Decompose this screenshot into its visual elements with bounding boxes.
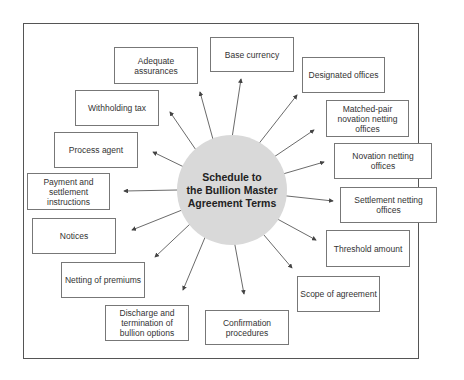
arrow-netting-premiums [155, 224, 190, 257]
node-label: Matched-pair novation netting offices [337, 104, 399, 134]
node-process-agent: Process agent [54, 132, 138, 168]
node-label: Base currency [225, 50, 279, 60]
node-payment-settlement: Payment and settlement instructions [27, 173, 110, 210]
arrow-withholding-tax [170, 112, 196, 150]
arrow-designated-offices [257, 95, 297, 146]
node-settlement-netting: Settlement netting offices [340, 187, 437, 223]
node-label: Adequate assurances [129, 56, 184, 76]
arrow-payment-settlement [124, 190, 178, 191]
arrow-discharge [183, 235, 206, 290]
node-scope-agreement: Scope of agreement [297, 276, 380, 312]
central-hub: Schedule to the Bullion Master Agreement… [177, 135, 287, 245]
node-label: Novation netting offices [351, 151, 416, 171]
node-label: Settlement netting offices [354, 195, 424, 215]
node-label: Threshold amount [334, 244, 403, 254]
node-discharge-termination: Discharge and termination of bullion opt… [105, 305, 189, 341]
node-confirmation-procedures: Confirmation procedures [205, 310, 289, 345]
node-matched-pair: Matched-pair novation netting offices [326, 100, 409, 137]
node-threshold-amount: Threshold amount [326, 230, 410, 267]
arrow-adequate-assurances [200, 92, 214, 143]
node-label: Scope of agreement [300, 289, 377, 299]
node-base-currency: Base currency [210, 37, 294, 72]
node-notices: Notices [32, 218, 116, 254]
arrow-process-agent [153, 152, 186, 168]
node-label: Designated offices [309, 70, 379, 80]
node-novation-netting: Novation netting offices [334, 143, 432, 179]
node-adequate-assurances: Adequate assurances [114, 47, 198, 84]
node-netting-premiums: Netting of premiums [61, 262, 145, 298]
node-designated-offices: Designated offices [302, 57, 385, 93]
node-label: Notices [60, 231, 88, 241]
arrow-base-currency [232, 79, 241, 138]
node-withholding-tax: Withholding tax [75, 90, 159, 126]
arrow-notices [132, 210, 182, 230]
hub-title: Schedule to the Bullion Master Agreement… [186, 171, 277, 210]
node-label: Payment and settlement instructions [43, 177, 95, 207]
arrow-confirmation [234, 240, 244, 294]
node-label: Confirmation procedures [222, 318, 272, 338]
node-label: Process agent [69, 145, 123, 155]
node-label: Discharge and termination of bullion opt… [117, 308, 177, 338]
node-label: Withholding tax [88, 103, 146, 113]
node-label: Netting of premiums [65, 275, 141, 285]
